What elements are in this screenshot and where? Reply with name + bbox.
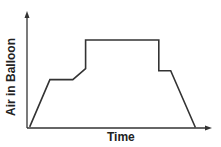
y-axis-arrow-icon: [25, 11, 30, 18]
data-line: [30, 40, 196, 128]
x-axis-arrow-icon: [205, 126, 212, 131]
axes: [25, 11, 213, 131]
y-axis-label: Air in Balloon: [5, 38, 17, 116]
line-chart: [0, 0, 221, 147]
x-axis-label: Time: [107, 131, 135, 143]
